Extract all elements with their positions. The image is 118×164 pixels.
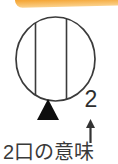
- outlet-symbol-drawing: [0, 0, 118, 164]
- caption-text: 2口の意味: [3, 142, 117, 163]
- triangle-marker: [37, 99, 59, 120]
- outlet-count-label: 2: [83, 88, 99, 111]
- up-arrow-icon: [86, 119, 95, 143]
- diagram-page: { "colors": { "accent_top": "#E98D1D", "…: [0, 0, 118, 164]
